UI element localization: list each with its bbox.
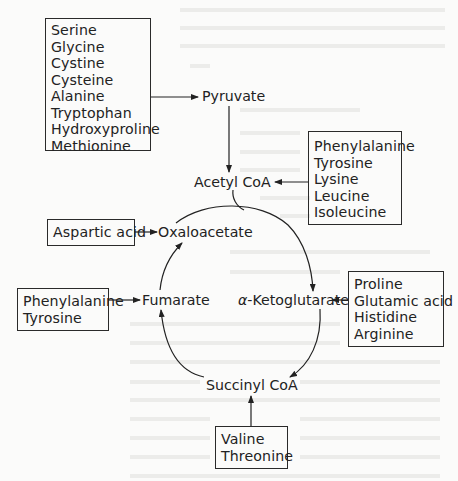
amino-acid-leucine: Leucine — [314, 188, 401, 205]
arrow-alpha-ketoglutarate-to-succinyl-coa — [290, 309, 320, 377]
alpha-ketoglutarate-label: α-Ketoglutarate — [238, 292, 349, 308]
amino-acid-alanine: Alanine — [51, 88, 150, 105]
amino-acid-phenylalanine: Phenylalanine — [314, 138, 401, 155]
amino-acid-tryptophan: Tryptophan — [51, 105, 150, 122]
amino-acid-aspartic-acid: Aspartic acid — [53, 224, 134, 241]
box-alpha-ketoglutarate-sources: Proline Glutamic acid Histidine Arginine — [348, 271, 444, 347]
amino-acid-histidine: Histidine — [354, 309, 443, 326]
amino-acid-threonine: Threonine — [221, 448, 287, 465]
box-succinyl-coa-sources: Valine Threonine — [215, 426, 288, 469]
arrow-fumarate-to-oxaloacetate — [160, 243, 182, 290]
box-pyruvate-sources: Serine Glycine Cystine Cysteine Alanine … — [45, 18, 151, 151]
amino-acid-hydroxyproline: Hydroxyproline — [51, 121, 150, 138]
box-acetyl-coa-sources: Phenylalanine Tyrosine Lysine Leucine Is… — [308, 131, 402, 225]
amino-acid-valine: Valine — [221, 431, 287, 448]
succinyl-coa-label: Succinyl CoA — [206, 377, 298, 393]
amino-acid-phenylalanine: Phenylalanine — [23, 293, 108, 310]
amino-acid-isoleucine: Isoleucine — [314, 204, 401, 221]
fumarate-label: Fumarate — [142, 292, 210, 308]
alpha-symbol: α — [238, 292, 247, 308]
amino-acid-cystine: Cystine — [51, 55, 150, 72]
box-fumarate-sources: Phenylalanine Tyrosine — [17, 288, 109, 331]
oxaloacetate-label: Oxaloacetate — [158, 224, 253, 240]
amino-acid-glycine: Glycine — [51, 39, 150, 56]
acetyl-coa-label: Acetyl CoA — [194, 174, 271, 190]
arrow-oxaloacetate-to-alpha-ketoglutarate — [176, 206, 313, 291]
amino-acid-cysteine: Cysteine — [51, 72, 150, 89]
pyruvate-label: Pyruvate — [202, 88, 265, 104]
ketoglutarate-text: -Ketoglutarate — [247, 292, 349, 308]
amino-acid-lysine: Lysine — [314, 171, 401, 188]
amino-acid-tyrosine: Tyrosine — [314, 155, 401, 172]
amino-acid-glutamic-acid: Glutamic acid — [354, 293, 443, 310]
amino-acid-tyrosine: Tyrosine — [23, 310, 108, 327]
arrow-succinyl-coa-to-fumarate — [161, 310, 204, 377]
amino-acid-arginine: Arginine — [354, 326, 443, 343]
amino-acid-proline: Proline — [354, 276, 443, 293]
amino-acid-methionine: Methionine — [51, 138, 150, 155]
amino-acid-serine: Serine — [51, 22, 150, 39]
box-oxaloacetate-sources: Aspartic acid — [47, 219, 135, 246]
